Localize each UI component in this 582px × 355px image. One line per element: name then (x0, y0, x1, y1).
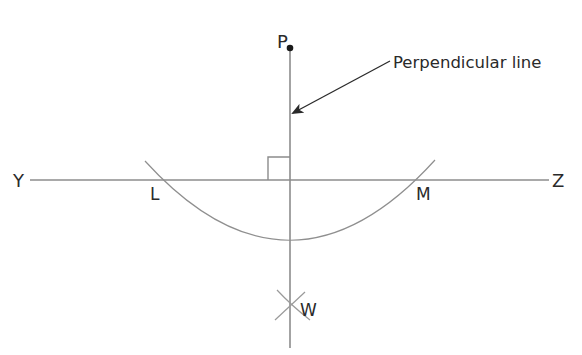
callout-label: Perpendicular line (393, 53, 541, 72)
right-angle-marker (268, 157, 290, 180)
label-l: L (150, 184, 160, 204)
label-p: P (277, 31, 288, 52)
label-z: Z (552, 170, 564, 191)
label-y: Y (12, 170, 25, 191)
callout-arrow (293, 61, 390, 113)
label-w: W (300, 300, 317, 320)
label-m: M (416, 184, 431, 204)
perpendicular-construction-diagram: P Y Z L M W Perpendicular line (0, 0, 582, 355)
